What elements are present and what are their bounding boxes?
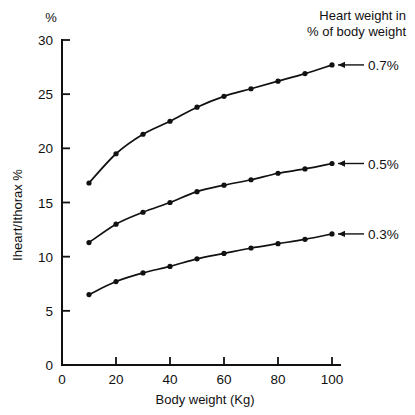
data-point: [194, 189, 199, 194]
legend-title-line-2: % of body weight: [307, 24, 406, 39]
data-point: [167, 200, 172, 205]
data-point: [140, 132, 145, 137]
x-tick-label-80: 80: [270, 372, 285, 387]
legend-title-line-1: Heart weight in: [319, 8, 406, 23]
data-point: [302, 166, 307, 171]
chart-figure: 051015202530 020406080100 % Iheart/Ithor…: [0, 0, 415, 415]
data-point: [194, 256, 199, 261]
x-tick-label-60: 60: [216, 372, 231, 387]
data-point: [329, 161, 334, 166]
data-point: [221, 251, 226, 256]
y-axis-unit-label: %: [45, 10, 57, 25]
data-point: [86, 240, 91, 245]
data-point: [248, 86, 253, 91]
y-axis-title: Iheart/Ithorax %: [10, 169, 25, 261]
line-chart: 051015202530 020406080100 % Iheart/Ithor…: [0, 0, 415, 415]
series-label-0.7%: 0.7%: [368, 58, 399, 73]
data-point: [275, 79, 280, 84]
data-point: [140, 270, 145, 275]
data-point: [113, 222, 118, 227]
series-label-0.5%: 0.5%: [368, 157, 399, 172]
x-tick-label-40: 40: [162, 372, 177, 387]
x-tick-label-0: 0: [58, 372, 66, 387]
y-tick-label-5: 5: [45, 304, 53, 319]
data-point: [275, 241, 280, 246]
data-point: [221, 94, 226, 99]
data-point: [113, 279, 118, 284]
x-tick-label-20: 20: [108, 372, 123, 387]
data-point: [194, 105, 199, 110]
data-point: [113, 151, 118, 156]
y-tick-label-30: 30: [38, 33, 53, 48]
data-point: [248, 177, 253, 182]
y-tick-label-0: 0: [45, 358, 53, 373]
y-tick-label-25: 25: [38, 87, 53, 102]
x-axis-title: Body weight (Kg): [156, 392, 255, 407]
series-label-0.3%: 0.3%: [368, 227, 399, 242]
data-point: [167, 264, 172, 269]
y-tick-label-20: 20: [38, 141, 53, 156]
data-point: [140, 210, 145, 215]
data-point: [302, 237, 307, 242]
y-tick-label-10: 10: [38, 250, 53, 265]
data-point: [86, 180, 91, 185]
data-point: [302, 71, 307, 76]
y-tick-label-15: 15: [38, 196, 53, 211]
data-point: [329, 62, 334, 67]
data-point: [329, 231, 334, 236]
data-point: [167, 119, 172, 124]
data-point: [86, 292, 91, 297]
data-point: [248, 245, 253, 250]
data-point: [275, 171, 280, 176]
x-tick-label-100: 100: [321, 372, 344, 387]
data-point: [221, 183, 226, 188]
